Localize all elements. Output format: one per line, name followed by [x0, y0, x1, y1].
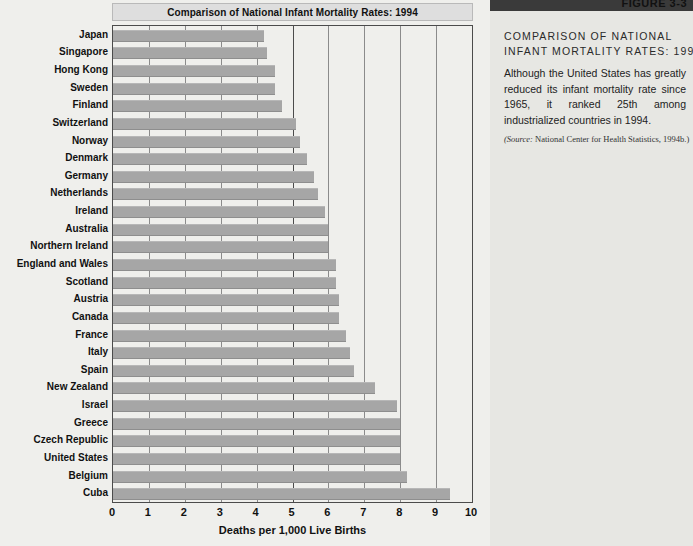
- bar: [113, 206, 325, 218]
- category-label: Cuba: [83, 487, 108, 499]
- bar-row: [113, 171, 472, 183]
- bar-row: [113, 83, 472, 95]
- category-label: Czech Republic: [34, 434, 108, 446]
- chart-panel: Comparison of National Infant Mortality …: [0, 0, 490, 546]
- bar: [113, 259, 336, 271]
- bar: [113, 418, 400, 430]
- category-label: Denmark: [65, 152, 108, 164]
- figure-heading-line-2: INFANT MORTALITY RATES: 1994: [504, 44, 686, 59]
- category-label: Australia: [65, 223, 108, 235]
- bar-row: [113, 488, 472, 500]
- bar: [113, 100, 282, 112]
- bar: [113, 241, 328, 253]
- bar: [113, 30, 264, 42]
- bar: [113, 224, 328, 236]
- category-label: Sweden: [70, 82, 108, 94]
- bar: [113, 47, 267, 59]
- x-tick-label-7: 7: [351, 506, 375, 518]
- chart-title: Comparison of National Infant Mortality …: [167, 7, 418, 18]
- bar: [113, 136, 300, 148]
- category-label: Netherlands: [50, 187, 108, 199]
- x-tick-label-2: 2: [172, 506, 196, 518]
- x-tick-label-10: 10: [459, 506, 483, 518]
- category-label: Italy: [88, 346, 108, 358]
- x-axis-ticks: 012345678910: [0, 506, 490, 522]
- x-tick-label-4: 4: [244, 506, 268, 518]
- figure-source: (Source: National Center for Health Stat…: [504, 134, 690, 144]
- figure-source-text: National Center for Health Statistics, 1…: [533, 134, 689, 144]
- bar-row: [113, 277, 472, 289]
- bar: [113, 188, 318, 200]
- bar: [113, 118, 296, 130]
- category-label: Germany: [65, 170, 108, 182]
- bar-row: [113, 418, 472, 430]
- category-label: Spain: [81, 364, 108, 376]
- x-tick-label-0: 0: [100, 506, 124, 518]
- category-label: Hong Kong: [54, 64, 108, 76]
- figure-source-prefix: (Source:: [504, 134, 533, 144]
- bar-row: [113, 294, 472, 306]
- x-tick-label-9: 9: [423, 506, 447, 518]
- bar: [113, 435, 400, 447]
- category-label: Ireland: [75, 205, 108, 217]
- category-label: United States: [44, 452, 108, 464]
- category-label: Northern Ireland: [30, 240, 108, 252]
- category-label: Scotland: [66, 276, 108, 288]
- category-label: Norway: [72, 135, 108, 147]
- category-label: Belgium: [69, 470, 108, 482]
- bar-row: [113, 30, 472, 42]
- bar: [113, 400, 397, 412]
- bar-row: [113, 65, 472, 77]
- bar: [113, 171, 314, 183]
- bar: [113, 347, 350, 359]
- figure-body-text: Although the United States has greatly r…: [504, 66, 686, 128]
- gridline-10: [472, 26, 473, 502]
- bar-rows: [113, 26, 472, 502]
- figure-number: FIGURE 3-3: [621, 0, 687, 9]
- bar: [113, 153, 307, 165]
- bar-row: [113, 118, 472, 130]
- category-label: New Zealand: [47, 381, 108, 393]
- bar-row: [113, 259, 472, 271]
- bar-row: [113, 206, 472, 218]
- bar: [113, 453, 400, 465]
- category-label: Canada: [72, 311, 108, 323]
- bar-row: [113, 435, 472, 447]
- figure-caption-panel: FIGURE 3-3 COMPARISON OF NATIONAL INFANT…: [490, 0, 693, 546]
- bar-row: [113, 241, 472, 253]
- bar: [113, 277, 336, 289]
- bar-row: [113, 382, 472, 394]
- bar-row: [113, 400, 472, 412]
- x-tick-label-6: 6: [315, 506, 339, 518]
- category-label: Switzerland: [52, 117, 108, 129]
- bar: [113, 382, 375, 394]
- category-label: Finland: [72, 99, 108, 111]
- bar-row: [113, 224, 472, 236]
- bar-row: [113, 100, 472, 112]
- bar: [113, 312, 339, 324]
- category-axis-labels: JapanSingaporeHong KongSwedenFinlandSwit…: [0, 25, 108, 503]
- figure-heading-line-1: COMPARISON OF NATIONAL: [504, 29, 686, 44]
- bar-row: [113, 365, 472, 377]
- bar: [113, 365, 354, 377]
- bar: [113, 330, 346, 342]
- bar-row: [113, 347, 472, 359]
- category-label: Greece: [74, 417, 108, 429]
- category-label: France: [75, 329, 108, 341]
- bar: [113, 471, 407, 483]
- plot-area: [112, 25, 473, 503]
- x-tick-label-5: 5: [280, 506, 304, 518]
- category-label: Singapore: [59, 46, 108, 58]
- figure-band: FIGURE 3-3: [490, 0, 693, 11]
- bar-row: [113, 312, 472, 324]
- chart-title-bar: Comparison of National Infant Mortality …: [112, 3, 473, 21]
- bar: [113, 294, 339, 306]
- category-label: England and Wales: [17, 258, 108, 270]
- x-tick-label-3: 3: [208, 506, 232, 518]
- x-axis-label: Deaths per 1,000 Live Births: [112, 524, 473, 536]
- bar-row: [113, 136, 472, 148]
- bar-row: [113, 453, 472, 465]
- bar-row: [113, 47, 472, 59]
- category-label: Israel: [82, 399, 108, 411]
- bar-row: [113, 471, 472, 483]
